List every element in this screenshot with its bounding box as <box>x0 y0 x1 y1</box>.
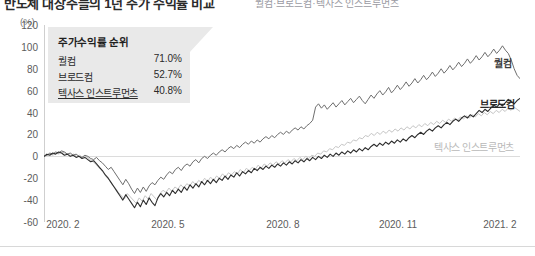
y-tick-120: 120 <box>4 20 38 31</box>
page-title: 반도체 대장주들의 1년 주가 수익률 비교 <box>4 0 215 11</box>
legend-title: 주가수익률 순위 <box>58 34 129 49</box>
chart-page: 반도체 대장주들의 1년 주가 수익률 비교 퀄컴·브로드컴·텍사스 인스트루먼… <box>0 0 535 256</box>
legend-callout-tail <box>189 27 213 53</box>
legend-name-qualcomm: 퀄컴 <box>58 53 75 68</box>
bottom-divider <box>0 246 535 247</box>
series-label-qualcomm: 퀄컴 <box>494 55 511 70</box>
series-label-broadcom: 브로드컴 <box>480 96 514 111</box>
x-tick-2020-02: 2020. 2 <box>46 219 79 230</box>
legend-name-texas-instruments: 텍사스 인스트루먼츠 <box>58 85 138 100</box>
legend-row-qualcomm: 퀄컴 71.0% <box>58 53 182 69</box>
y-tick-neg40: -40 <box>4 195 38 206</box>
x-tick-2020-11: 2020. 11 <box>379 219 417 230</box>
y-tick-100: 100 <box>4 41 38 52</box>
headline-strip: 반도체 대장주들의 1년 주가 수익률 비교 퀄컴·브로드컴·텍사스 인스트루먼… <box>0 0 535 11</box>
y-tick-neg60: -60 <box>4 217 38 228</box>
legend-value-broadcom: 52.7% <box>154 69 182 80</box>
legend-value-texas-instruments: 40.8% <box>154 85 182 96</box>
y-tick-0: 0 <box>4 151 38 162</box>
legend-callout: 주가수익률 순위 퀄컴 71.0% 브로드컴 52.7% 텍사스 인스트루먼츠 … <box>48 27 190 103</box>
y-tick-neg20: -20 <box>4 173 38 184</box>
legend-row-texas-instruments: 텍사스 인스트루먼츠 40.8% <box>58 85 182 101</box>
x-tick-2020-08: 2020. 8 <box>266 219 299 230</box>
page-subtitle: 퀄컴·브로드컴·텍사스 인스트루먼츠 <box>255 0 399 10</box>
y-tick-80: 80 <box>4 63 38 74</box>
series-label-texas-instruments: 텍사스 인스트루먼츠 <box>434 139 514 154</box>
y-tick-20: 20 <box>4 129 38 140</box>
y-tick-40: 40 <box>4 107 38 118</box>
legend-value-qualcomm: 71.0% <box>154 53 182 64</box>
x-tick-2020-05: 2020. 5 <box>151 219 184 230</box>
line-chart: (%) 120 100 80 60 40 20 0 -20 -40 -60 퀄컴… <box>0 11 535 243</box>
x-tick-2021-02: 2021. 2 <box>483 219 516 230</box>
legend-row-broadcom: 브로드컴 52.7% <box>58 69 182 85</box>
y-tick-60: 60 <box>4 85 38 96</box>
legend-name-broadcom: 브로드컴 <box>58 69 92 84</box>
